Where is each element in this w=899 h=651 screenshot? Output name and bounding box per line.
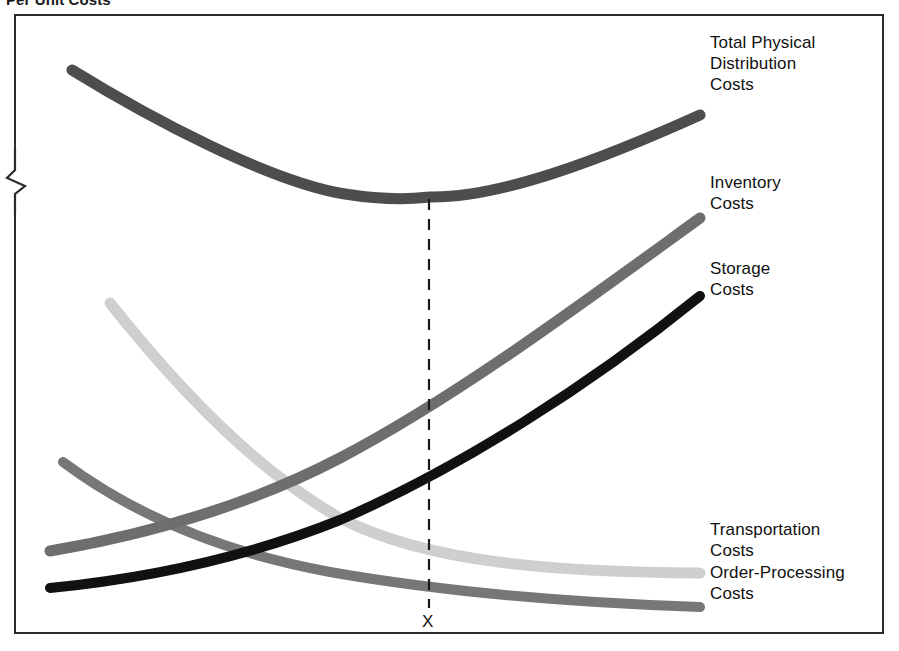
axis-break-zigzag [7,148,25,214]
series-label-storage: Storage Costs [710,258,770,300]
optimum-x-marker: X [422,612,433,632]
series-label-transportation: Transportation Costs [710,519,820,561]
figure-container: Per Unit Costs Total Physical Distributi… [0,0,899,651]
series-label-inventory: Inventory Costs [710,172,781,214]
series-label-total: Total Physical Distribution Costs [710,32,815,95]
series-label-order-processing: Order-Processing Costs [710,562,845,604]
series-curve-total [72,70,700,199]
